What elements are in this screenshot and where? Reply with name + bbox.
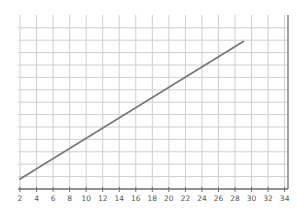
x-tick-label: 12 bbox=[98, 194, 108, 203]
x-tick-label: 14 bbox=[114, 194, 124, 203]
x-tick-label: 2 bbox=[18, 194, 23, 203]
x-tick-label: 30 bbox=[247, 194, 257, 203]
x-tick-label: 8 bbox=[67, 194, 72, 203]
x-tick-label: 20 bbox=[164, 194, 174, 203]
x-tick-label: 28 bbox=[230, 194, 240, 203]
x-tick-label: 6 bbox=[51, 194, 56, 203]
grid-lines bbox=[18, 15, 288, 189]
line-chart: 246810121416182022242628303234 bbox=[0, 0, 305, 219]
x-tick-label: 16 bbox=[131, 194, 141, 203]
x-tick-label: 32 bbox=[263, 194, 273, 203]
x-tick-label: 26 bbox=[214, 194, 224, 203]
x-tick-label: 18 bbox=[148, 194, 158, 203]
x-axis-tick-labels: 246810121416182022242628303234 bbox=[18, 194, 290, 203]
x-tick-label: 34 bbox=[280, 194, 290, 203]
x-tick-label: 24 bbox=[197, 194, 207, 203]
x-tick-label: 4 bbox=[34, 194, 39, 203]
x-tick-label: 22 bbox=[181, 194, 191, 203]
x-tick-label: 10 bbox=[81, 194, 91, 203]
